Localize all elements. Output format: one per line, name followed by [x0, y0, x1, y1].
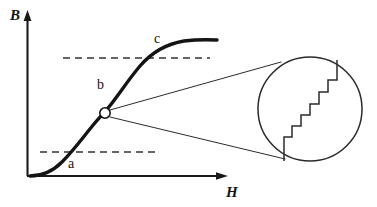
barkhausen-staircase [284, 60, 337, 161]
magnetization-curve [30, 40, 217, 176]
inflection-point-marker [100, 108, 110, 118]
x-axis-label: H [225, 184, 239, 200]
bh-curve-figure: B H a b c [0, 0, 377, 207]
point-label-c: c [154, 31, 160, 46]
point-label-a: a [68, 156, 75, 171]
dashed-guides-group [40, 58, 210, 152]
y-axis-arrowhead [24, 10, 32, 21]
y-axis-label: B [9, 7, 20, 23]
figure-canvas: B H a b c [0, 0, 377, 207]
magnifier-group [258, 57, 362, 161]
x-axis-arrowhead [216, 172, 228, 180]
axes-group [24, 10, 228, 180]
point-label-b: b [97, 77, 104, 92]
